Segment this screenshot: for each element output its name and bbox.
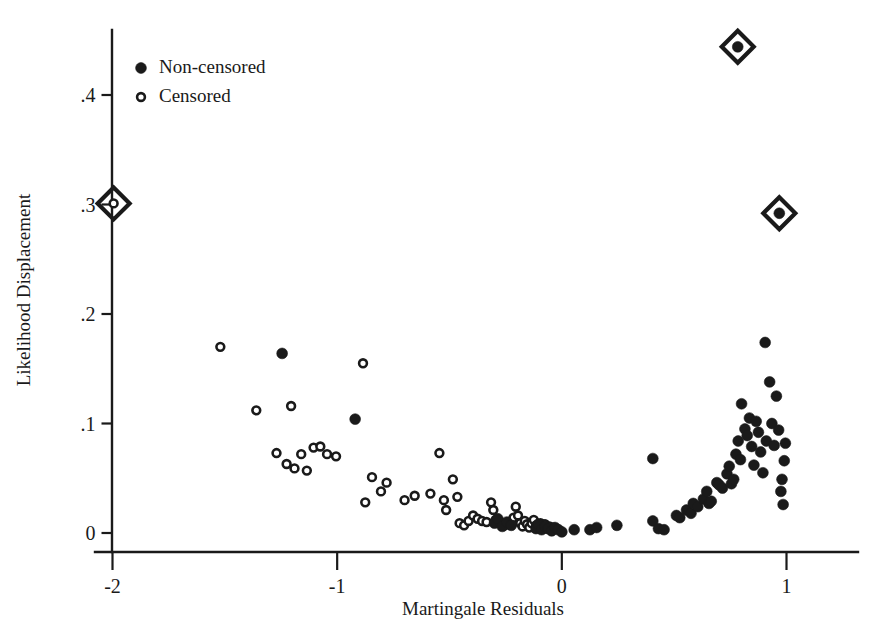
data-point bbox=[701, 486, 712, 497]
series-non-censored bbox=[277, 337, 791, 537]
series-censored bbox=[216, 343, 557, 534]
likelihood-displacement-scatter-chart: 0.1.2.3.4-2-101 Non-censoredCensored Mar… bbox=[0, 0, 887, 640]
data-point bbox=[706, 496, 717, 507]
x-tick-label-1: -1 bbox=[329, 575, 346, 597]
x-tick-label-3: 1 bbox=[782, 575, 792, 597]
data-point bbox=[728, 474, 739, 485]
data-point bbox=[724, 461, 735, 472]
data-point bbox=[512, 503, 520, 511]
data-point bbox=[780, 438, 791, 449]
data-point bbox=[303, 467, 311, 475]
x-tick-label-0: -2 bbox=[104, 575, 121, 597]
y-tick-label-2: .2 bbox=[81, 303, 96, 325]
data-point bbox=[323, 450, 331, 458]
data-point bbox=[368, 473, 376, 481]
data-point bbox=[435, 449, 443, 457]
data-point bbox=[751, 416, 762, 427]
y-tick-label-0: 0 bbox=[86, 522, 96, 544]
x-tick-label-2: 0 bbox=[557, 575, 567, 597]
data-point bbox=[778, 499, 789, 510]
data-point bbox=[291, 464, 299, 472]
data-point bbox=[764, 376, 775, 387]
data-point bbox=[611, 520, 622, 531]
data-point bbox=[273, 449, 281, 457]
chart-legend: Non-censoredCensored bbox=[136, 56, 266, 106]
data-point bbox=[287, 402, 295, 410]
legend-label-censored: Censored bbox=[159, 85, 231, 106]
data-point bbox=[401, 496, 409, 504]
axes bbox=[95, 30, 858, 552]
highlighted-data-point bbox=[774, 208, 785, 219]
legend-label-non-censored: Non-censored bbox=[159, 56, 266, 77]
data-point bbox=[489, 506, 497, 514]
y-tick-label-4: .4 bbox=[81, 84, 96, 106]
data-point bbox=[753, 427, 764, 438]
data-point bbox=[383, 479, 391, 487]
data-point bbox=[742, 430, 753, 441]
data-point bbox=[449, 475, 457, 483]
data-point bbox=[771, 391, 782, 402]
scatter-plot-figure: 0.1.2.3.4-2-101 Non-censoredCensored Mar… bbox=[0, 0, 887, 640]
data-point bbox=[216, 343, 224, 351]
data-point bbox=[779, 455, 790, 466]
highlighted-data-point bbox=[110, 200, 118, 208]
data-point bbox=[773, 425, 784, 436]
legend-marker-open-circle bbox=[137, 93, 145, 101]
data-point bbox=[453, 493, 461, 501]
data-point bbox=[777, 474, 788, 485]
legend-marker-filled-circle bbox=[136, 63, 147, 74]
data-point bbox=[440, 496, 448, 504]
data-point bbox=[769, 440, 780, 451]
data-point bbox=[350, 414, 361, 425]
data-point bbox=[735, 454, 746, 465]
y-axis-title: Likelihood Displacement bbox=[13, 193, 34, 386]
data-point bbox=[361, 498, 369, 506]
x-axis-title: Martingale Residuals bbox=[402, 598, 564, 619]
y-tick-label-1: .1 bbox=[81, 413, 96, 435]
data-point bbox=[736, 398, 747, 409]
data-point bbox=[758, 467, 769, 478]
data-point bbox=[297, 450, 305, 458]
data-point bbox=[316, 443, 324, 451]
data-point bbox=[591, 522, 602, 533]
data-point bbox=[411, 492, 419, 500]
data-points bbox=[216, 337, 790, 537]
data-point bbox=[252, 406, 260, 414]
highlighted-data-point bbox=[732, 41, 743, 52]
data-point bbox=[442, 506, 450, 514]
data-point bbox=[377, 487, 385, 495]
data-point bbox=[277, 348, 288, 359]
data-point bbox=[506, 520, 517, 531]
data-point bbox=[427, 490, 435, 498]
data-point bbox=[359, 359, 367, 367]
data-point bbox=[647, 453, 658, 464]
data-point bbox=[755, 447, 766, 458]
data-point bbox=[749, 460, 760, 471]
y-tick-label-3: .3 bbox=[81, 194, 96, 216]
data-point bbox=[775, 486, 786, 497]
data-point bbox=[569, 524, 580, 535]
data-point bbox=[760, 337, 771, 348]
data-point bbox=[283, 460, 291, 468]
data-point bbox=[332, 452, 340, 460]
data-point bbox=[556, 527, 567, 538]
data-point bbox=[659, 524, 670, 535]
